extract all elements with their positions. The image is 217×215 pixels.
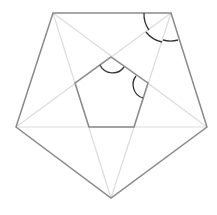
outer-vertex-arc-1 (144, 13, 149, 30)
outer-vertex-arc-3 (163, 40, 178, 41)
inner-pentagon (75, 57, 148, 127)
pentagon-pentagram-diagram (0, 0, 217, 215)
outer-vertex-arc-2 (146, 32, 162, 42)
inner-top-arc (100, 65, 124, 73)
